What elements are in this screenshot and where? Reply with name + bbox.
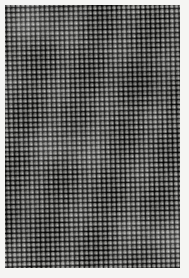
tonal-variation-layer bbox=[5, 5, 180, 268]
fabric-swatch bbox=[5, 5, 180, 268]
image-canvas: Extreme close-up macro photograph of a g… bbox=[0, 0, 189, 278]
